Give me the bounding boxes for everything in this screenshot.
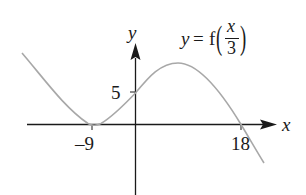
function-curve bbox=[22, 53, 264, 163]
title-equals: = bbox=[193, 28, 204, 50]
x-axis-label: x bbox=[282, 114, 290, 136]
title-lhs: y bbox=[181, 28, 189, 50]
chart-figure: y x 5 –9 18 y = f ( x 3 ) bbox=[0, 0, 306, 195]
title-rparen: ) bbox=[240, 19, 246, 57]
y-axis-arrow-icon bbox=[131, 43, 141, 60]
x-tick-label-neg9: –9 bbox=[75, 133, 94, 155]
title-lparen: ( bbox=[216, 19, 222, 57]
x-tick-label-18: 18 bbox=[231, 133, 250, 155]
title-numerator: x bbox=[227, 16, 235, 37]
title-denominator: 3 bbox=[227, 38, 236, 59]
y-tick-label-5: 5 bbox=[111, 82, 121, 104]
chart-svg bbox=[0, 0, 306, 195]
y-axis-label: y bbox=[128, 22, 136, 44]
title-func: f bbox=[209, 28, 215, 50]
